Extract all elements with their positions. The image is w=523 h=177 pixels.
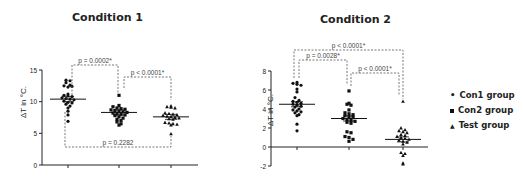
p-value-annotation: p = 0.2282 bbox=[103, 139, 134, 147]
svg-text:0: 0 bbox=[33, 162, 37, 169]
legend: • Con1 group Con2 group ▲ Test group bbox=[450, 88, 515, 133]
svg-text:15: 15 bbox=[30, 67, 38, 74]
p-value-annotation: p < 0.0001* bbox=[131, 69, 165, 77]
svg-text:2: 2 bbox=[262, 125, 266, 132]
legend-item-test: ▲ Test group bbox=[450, 118, 515, 133]
legend-item-con1: • Con1 group bbox=[450, 88, 515, 103]
svg-text:5: 5 bbox=[33, 130, 37, 137]
legend-item-con2: Con2 group bbox=[450, 103, 515, 118]
chart-canvas: 051015p = 0.0002*p < 0.0001*p = 0.2282-2… bbox=[0, 0, 523, 177]
p-value-annotation: p < 0.0001* bbox=[332, 42, 366, 50]
chart-1: 051015p = 0.0002*p < 0.0001*p = 0.2282 bbox=[30, 57, 198, 169]
triangle-marker-icon: ▲ bbox=[450, 118, 455, 133]
square-marker-icon bbox=[450, 109, 454, 113]
svg-text:0: 0 bbox=[262, 144, 266, 151]
chart-2: -202468p < 0.0001*p = 0.0028*p < 0.0001* bbox=[260, 42, 428, 170]
circle-marker-icon: • bbox=[450, 88, 455, 103]
p-value-annotation: p < 0.0001* bbox=[358, 65, 392, 73]
p-value-annotation: p = 0.0028* bbox=[306, 52, 340, 60]
svg-text:-2: -2 bbox=[260, 163, 266, 170]
p-value-annotation: p = 0.0002* bbox=[78, 57, 112, 65]
svg-text:6: 6 bbox=[262, 87, 266, 94]
svg-text:8: 8 bbox=[262, 68, 266, 75]
svg-text:4: 4 bbox=[262, 106, 266, 113]
svg-text:10: 10 bbox=[30, 98, 38, 105]
